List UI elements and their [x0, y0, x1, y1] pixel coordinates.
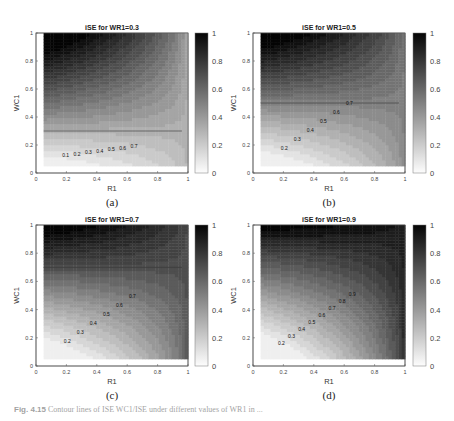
x-axis-label: R1 [324, 184, 334, 193]
y-tick-label: 0.6 [25, 278, 33, 284]
x-tick-label: 0.4 [93, 369, 101, 375]
contour-label: 0.3 [294, 136, 301, 142]
x-tick-label: 0.6 [123, 176, 131, 182]
contour-panel-a: 00.20.40.60.8100.20.40.60.81iSE for WR1=… [12, 24, 222, 209]
colorbar-tick-label: 0 [212, 169, 216, 178]
x-tick-label: 0 [251, 369, 254, 375]
y-axis-label: WC1 [12, 95, 21, 112]
contour-label: 0.3 [85, 149, 92, 155]
colorbar-tick-label: 0.2 [430, 334, 440, 343]
x-tick-label: 0.2 [63, 369, 71, 375]
x-tick-label: 1 [186, 176, 189, 182]
x-axis-label: R1 [324, 377, 334, 386]
colorbar-tick-label: 0 [212, 362, 216, 371]
y-tick-label: 0 [30, 170, 33, 176]
colorbar-tick-label: 1 [212, 221, 216, 230]
contour-label: 0.7 [346, 100, 353, 106]
colorbar-tick-label: 0.4 [430, 306, 440, 315]
y-tick-label: 1 [30, 222, 33, 228]
contour-label: 0.1 [62, 152, 69, 158]
y-tick-label: 0.6 [242, 86, 250, 92]
plot-title: iSE for WR1=0.5 [302, 24, 356, 31]
y-axis-label: WC1 [12, 287, 21, 304]
y-tick-label: 0.6 [242, 278, 250, 284]
y-tick-label: 1 [247, 222, 250, 228]
colorbar [195, 33, 208, 173]
colorbar-tick-label: 0.2 [212, 334, 222, 343]
contour-label: 0.4 [298, 326, 305, 332]
contour-label: 0.4 [307, 127, 314, 133]
colorbar-tick-label: 0.6 [430, 277, 440, 286]
y-tick-label: 1 [247, 30, 250, 36]
y-tick-label: 0.8 [242, 58, 250, 64]
x-tick-label: 0 [34, 369, 37, 375]
x-tick-label: 1 [186, 369, 189, 375]
contour-fill [44, 33, 189, 166]
panel-label: (b) [323, 196, 336, 209]
colorbar-tick-label: 0.4 [212, 113, 222, 122]
y-tick-label: 0.4 [242, 114, 250, 120]
plot-title: iSE for WR1=0.7 [85, 216, 139, 223]
colorbar-tick-label: 1 [212, 29, 216, 38]
colorbar-tick-label: 0 [430, 362, 434, 371]
x-tick-label: 0.4 [310, 176, 318, 182]
x-tick-label: 0.6 [340, 369, 348, 375]
y-tick-label: 1 [30, 30, 33, 36]
colorbar-tick-label: 1 [430, 29, 434, 38]
contour-label: 0.7 [329, 305, 336, 311]
colorbar [413, 225, 426, 366]
contour-label: 0.3 [288, 333, 295, 339]
colorbar-tick-label: 0.2 [430, 141, 440, 150]
x-tick-label: 1 [403, 369, 406, 375]
y-axis-label: WC1 [229, 95, 238, 112]
y-tick-label: 0.2 [25, 142, 33, 148]
colorbar-tick-label: 1 [430, 221, 434, 230]
contour-label: 0.6 [119, 145, 126, 151]
colorbar-tick-label: 0.8 [212, 249, 222, 258]
x-tick-label: 0.6 [123, 369, 131, 375]
colorbar-tick-label: 0.6 [212, 277, 222, 286]
colorbar-tick-label: 0.6 [212, 85, 222, 94]
x-tick-label: 0.2 [280, 369, 288, 375]
figure-caption: Fig. 4.15 Contour lines of ISE WC1/ISE u… [14, 405, 263, 414]
panel-label: (c) [106, 389, 119, 402]
contour-label: 0.5 [108, 146, 115, 152]
x-tick-label: 0.2 [63, 176, 71, 182]
plot-title: iSE for WR1=0.9 [302, 216, 356, 223]
colorbar [195, 225, 208, 366]
contour-label: 0.4 [90, 320, 97, 326]
colorbar-tick-label: 0.8 [430, 57, 440, 66]
contour-label: 0.2 [64, 338, 71, 344]
x-tick-label: 1 [403, 176, 406, 182]
contour-label: 0.2 [278, 340, 285, 346]
y-tick-label: 0.8 [25, 250, 33, 256]
y-tick-label: 0.4 [242, 307, 250, 313]
x-tick-label: 0.2 [280, 176, 288, 182]
colorbar-tick-label: 0.8 [212, 57, 222, 66]
x-tick-label: 0 [34, 176, 37, 182]
y-tick-label: 0.8 [242, 250, 250, 256]
plot-title: iSE for WR1=0.3 [85, 24, 139, 31]
y-tick-label: 0 [247, 363, 250, 369]
x-tick-label: 0.8 [154, 369, 162, 375]
colorbar [413, 33, 426, 173]
y-tick-label: 0.4 [25, 307, 33, 313]
y-tick-label: 0.2 [242, 142, 250, 148]
contour-label: 0.9 [349, 291, 356, 297]
x-axis-label: R1 [107, 377, 117, 386]
x-tick-label: 0 [251, 176, 254, 182]
caption-label: Fig. 4.15 [14, 405, 46, 414]
contour-label: 0.5 [103, 311, 110, 317]
x-tick-label: 0.8 [154, 176, 162, 182]
colorbar-tick-label: 0.4 [430, 113, 440, 122]
contour-label: 0.8 [339, 298, 346, 304]
x-tick-label: 0.4 [310, 369, 318, 375]
contour-label: 0.4 [96, 148, 103, 154]
colorbar-tick-label: 0.6 [430, 85, 440, 94]
y-tick-label: 0.2 [25, 335, 33, 341]
contour-label: 0.3 [77, 329, 84, 335]
colorbar-tick-label: 0.2 [212, 141, 222, 150]
contour-panel-b: 00.20.40.60.8100.20.40.60.81iSE for WR1=… [229, 24, 440, 209]
y-tick-label: 0.4 [25, 114, 33, 120]
contour-label: 0.6 [318, 312, 325, 318]
